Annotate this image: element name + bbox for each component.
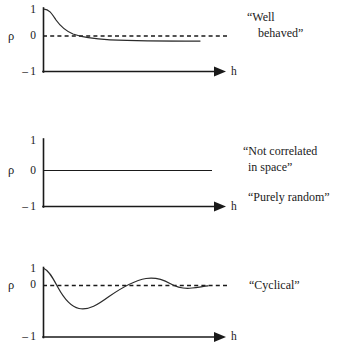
y-tick-mid: 0	[16, 279, 36, 291]
x-axis-arrow-icon	[214, 67, 226, 77]
curve-damped-cosine	[44, 269, 208, 309]
rho-axis-symbol: ρ	[8, 30, 14, 43]
y-tick-top: 1	[16, 263, 36, 275]
x-axis-label: h	[231, 201, 237, 213]
annotation-well-behaved-line1: “Well	[247, 10, 275, 25]
rho-axis-symbol: ρ	[8, 164, 14, 177]
y-tick-mid: 0	[16, 165, 36, 177]
plot-cyclical	[0, 236, 338, 353]
plot-well-behaved	[0, 0, 338, 118]
correlogram-figure: 1 ρ 0 – 1 h “Well behaved” 1 ρ 0 – 1 h “…	[0, 0, 338, 353]
annotation-purely-random: “Purely random”	[248, 190, 330, 205]
x-axis-arrow-icon	[214, 202, 226, 212]
y-tick-bottom: – 1	[12, 331, 36, 343]
rho-axis-symbol: ρ	[8, 279, 14, 292]
panel-cyclical: 1 ρ 0 – 1 h “Cyclical”	[0, 236, 338, 353]
plot-uncorrelated	[0, 118, 338, 236]
x-axis-label: h	[231, 66, 237, 78]
x-axis-arrow-icon	[214, 332, 226, 342]
panel-uncorrelated: 1 ρ 0 – 1 h “Not correlated in space” “P…	[0, 118, 338, 236]
annotation-uncorrelated-line1: “Not correlated	[243, 144, 317, 159]
annotation-uncorrelated-line2: in space”	[248, 160, 292, 175]
y-tick-top: 1	[16, 4, 36, 16]
panel-well-behaved: 1 ρ 0 – 1 h “Well behaved”	[0, 0, 338, 118]
y-tick-bottom: – 1	[12, 66, 36, 78]
annotation-well-behaved-line2: behaved”	[258, 26, 303, 41]
y-tick-top: 1	[16, 135, 36, 147]
x-axis-label: h	[231, 331, 237, 343]
y-tick-bottom: – 1	[12, 201, 36, 213]
y-tick-mid: 0	[16, 30, 36, 42]
annotation-cyclical: “Cyclical”	[249, 278, 300, 293]
